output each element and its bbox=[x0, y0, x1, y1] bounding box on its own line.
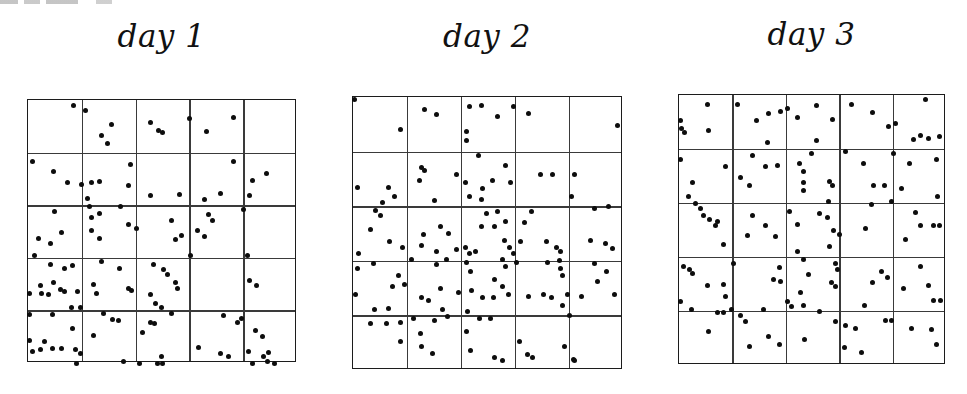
data-point bbox=[830, 183, 835, 188]
data-point bbox=[918, 264, 923, 269]
data-point bbox=[870, 110, 875, 115]
data-point bbox=[763, 164, 768, 169]
data-point bbox=[830, 117, 835, 122]
data-point bbox=[883, 318, 888, 323]
data-point bbox=[698, 206, 703, 211]
data-point bbox=[761, 307, 766, 312]
data-point bbox=[870, 280, 875, 285]
grid-line-vertical bbox=[732, 95, 733, 363]
data-point bbox=[706, 128, 711, 133]
data-point bbox=[913, 210, 918, 215]
data-point bbox=[729, 307, 734, 312]
data-point bbox=[795, 222, 800, 227]
data-point bbox=[750, 213, 755, 218]
data-point bbox=[809, 151, 814, 156]
data-point bbox=[909, 326, 914, 331]
data-point bbox=[747, 344, 752, 349]
data-point bbox=[869, 202, 874, 207]
data-point bbox=[707, 217, 712, 222]
data-point bbox=[750, 153, 755, 158]
data-point bbox=[918, 133, 923, 138]
data-point bbox=[926, 283, 931, 288]
panel-day-3: day 3 bbox=[0, 0, 967, 394]
data-point bbox=[766, 111, 771, 116]
data-point bbox=[765, 140, 770, 145]
data-point bbox=[723, 164, 728, 169]
grid-line-horizontal bbox=[679, 257, 944, 258]
data-point bbox=[926, 136, 931, 141]
data-point bbox=[775, 163, 780, 168]
grid-line-horizontal bbox=[679, 203, 944, 204]
data-point bbox=[891, 151, 896, 156]
data-point bbox=[686, 194, 691, 199]
data-point bbox=[731, 261, 736, 266]
data-point bbox=[721, 310, 726, 315]
data-point bbox=[879, 269, 884, 274]
data-point bbox=[795, 115, 800, 120]
data-point bbox=[787, 209, 792, 214]
data-point bbox=[814, 138, 819, 143]
grid-line-vertical bbox=[786, 95, 787, 363]
data-point bbox=[778, 279, 783, 284]
data-point bbox=[693, 201, 698, 206]
data-point bbox=[806, 272, 811, 277]
data-point bbox=[899, 186, 904, 191]
data-point bbox=[901, 286, 906, 291]
data-point bbox=[721, 242, 726, 247]
data-point bbox=[889, 318, 894, 323]
data-point bbox=[937, 134, 942, 139]
data-point bbox=[889, 199, 894, 204]
data-point bbox=[882, 183, 887, 188]
data-point bbox=[723, 294, 728, 299]
data-point bbox=[849, 102, 854, 107]
data-point bbox=[923, 97, 928, 102]
data-point bbox=[690, 180, 695, 185]
data-point bbox=[713, 223, 718, 228]
data-point bbox=[715, 310, 720, 315]
data-point bbox=[678, 299, 683, 304]
grid-line-vertical bbox=[839, 95, 840, 363]
data-point bbox=[735, 102, 740, 107]
data-point bbox=[797, 161, 802, 166]
data-point bbox=[861, 161, 866, 166]
quadrat-plot bbox=[678, 94, 945, 364]
data-point bbox=[690, 271, 695, 276]
data-point bbox=[754, 118, 759, 123]
data-point bbox=[918, 223, 923, 228]
data-point bbox=[801, 188, 806, 193]
data-point bbox=[934, 157, 939, 162]
data-point bbox=[817, 309, 822, 314]
data-point bbox=[778, 109, 783, 114]
data-point bbox=[773, 234, 778, 239]
data-point bbox=[893, 121, 898, 126]
data-point bbox=[678, 118, 683, 123]
data-point bbox=[863, 226, 868, 231]
data-point bbox=[931, 223, 936, 228]
data-point bbox=[903, 237, 908, 242]
data-point bbox=[801, 169, 806, 174]
data-point bbox=[766, 334, 771, 339]
data-point bbox=[801, 257, 806, 262]
data-point bbox=[929, 327, 934, 332]
data-point bbox=[721, 282, 726, 287]
data-point bbox=[938, 298, 943, 303]
data-point bbox=[771, 277, 776, 282]
data-point bbox=[705, 102, 710, 107]
data-point bbox=[678, 157, 683, 162]
data-point bbox=[833, 261, 838, 266]
data-point bbox=[705, 283, 710, 288]
data-point bbox=[802, 337, 807, 342]
data-point bbox=[831, 228, 836, 233]
data-point bbox=[931, 298, 936, 303]
data-point bbox=[738, 175, 743, 180]
data-point bbox=[886, 124, 891, 129]
data-point bbox=[689, 307, 694, 312]
figure-canvas: day 1day 2day 3 bbox=[0, 0, 967, 394]
data-point bbox=[777, 265, 782, 270]
data-point bbox=[907, 161, 912, 166]
data-point bbox=[885, 275, 890, 280]
data-point bbox=[871, 183, 876, 188]
data-point bbox=[777, 342, 782, 347]
data-point bbox=[937, 223, 942, 228]
data-point bbox=[801, 180, 806, 185]
